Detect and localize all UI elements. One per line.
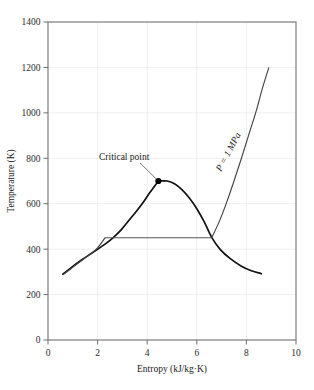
x-tick-label: 6	[194, 348, 199, 358]
y-tick-label: 400	[26, 245, 41, 255]
y-tick-label: 200	[26, 290, 41, 300]
x-tick-label: 4	[145, 348, 150, 358]
y-tick-label: 800	[26, 154, 41, 164]
y-axis-title: Temperature (K)	[6, 149, 17, 212]
x-tick-label: 2	[95, 348, 100, 358]
plot-frame	[48, 22, 296, 340]
x-axis-title: Entropy (kJ/kg·K)	[137, 364, 207, 375]
chart-canvas: 0246810 0200400600800100012001400 Critic…	[0, 0, 314, 390]
ts-diagram-figure: 0246810 0200400600800100012001400 Critic…	[0, 0, 314, 390]
y-tick-label: 600	[26, 199, 41, 209]
curve-saturated-liquid-line	[63, 181, 158, 274]
curve-isobar-compressed-liquid	[63, 238, 105, 275]
y-axis-tick-labels: 0200400600800100012001400	[22, 17, 41, 345]
gridlines-group	[48, 22, 296, 340]
x-tick-label: 8	[244, 348, 249, 358]
x-axis-ticks	[48, 340, 296, 345]
x-axis-tick-labels: 0246810	[46, 348, 301, 358]
y-tick-label: 1200	[22, 63, 41, 73]
y-tick-label: 0	[36, 335, 41, 345]
curve-isobar-superheat	[212, 68, 269, 238]
x-tick-label: 0	[46, 348, 51, 358]
x-tick-label: 10	[291, 348, 301, 358]
y-tick-label: 1400	[22, 17, 41, 27]
curve-saturated-vapor-line	[158, 181, 261, 274]
critical-point-leader-line	[140, 163, 156, 179]
data-curves-group	[63, 68, 269, 275]
y-axis-ticks	[44, 22, 49, 340]
y-tick-label: 1000	[22, 108, 41, 118]
critical-point-label: Critical point	[99, 152, 150, 162]
critical-point-marker	[155, 178, 161, 184]
